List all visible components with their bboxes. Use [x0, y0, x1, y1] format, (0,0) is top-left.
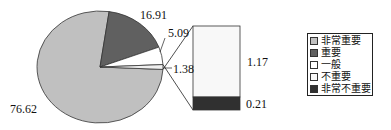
bar-segment	[193, 26, 240, 97]
label-important: 16.91	[140, 8, 167, 22]
label-very-important: 76.62	[10, 102, 37, 116]
label-very-unimportant: 0.21	[246, 97, 267, 111]
legend-item: 重要	[310, 47, 370, 59]
legend-label: 不重要	[321, 71, 351, 83]
legend-swatch	[310, 85, 318, 93]
legend-swatch	[310, 49, 318, 57]
legend-label: 重要	[321, 47, 341, 59]
legend-swatch	[310, 37, 318, 45]
legend: 非常重要 重要 一般 不重要 非常不重要	[307, 33, 373, 96]
label-average: 5.09	[168, 26, 189, 40]
legend-swatch	[310, 73, 318, 81]
legend-label: 非常不重要	[321, 83, 371, 95]
bar-segment	[193, 97, 240, 110]
label-other: 1.38	[173, 62, 194, 76]
legend-item: 非常不重要	[310, 83, 370, 95]
legend-label: 一般	[321, 59, 341, 71]
legend-swatch	[310, 61, 318, 69]
legend-item: 不重要	[310, 71, 370, 83]
pie	[37, 11, 163, 123]
legend-item: 非常重要	[310, 35, 370, 47]
exploded-bar	[193, 26, 240, 110]
label-not-important: 1.17	[247, 55, 268, 69]
legend-label: 非常重要	[321, 35, 361, 47]
legend-item: 一般	[310, 59, 370, 71]
leader-line	[160, 38, 165, 52]
